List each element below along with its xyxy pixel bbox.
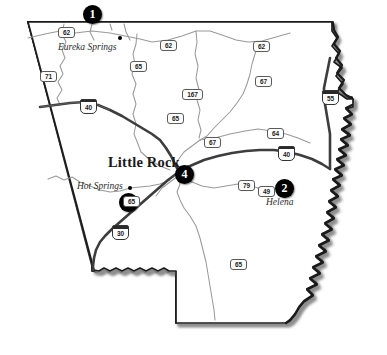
highway-shield-65-central: 65 bbox=[167, 113, 184, 124]
highway-shield-67-central: 67 bbox=[204, 137, 221, 148]
highway-shield-167: 167 bbox=[182, 89, 203, 100]
highway-shield-71: 71 bbox=[40, 71, 57, 82]
highway-shield-62-north-west: 62 bbox=[58, 27, 75, 38]
highway-shield-79: 79 bbox=[238, 180, 255, 191]
interstate-shield-40-west: 40 bbox=[80, 99, 97, 114]
city-label-little-rock: Little Rock bbox=[108, 155, 180, 170]
highway-shield-62-north-east: 62 bbox=[253, 41, 270, 52]
interstate-shield-55: 55 bbox=[322, 90, 339, 105]
highway-shield-65-little-rock: 65 bbox=[123, 196, 140, 207]
highway-shield-67-north: 67 bbox=[255, 76, 272, 87]
highway-shield-62-north-central: 62 bbox=[160, 40, 177, 51]
city-dot-eureka-springs bbox=[118, 36, 122, 40]
arkansas-map: Eureka Springs Little Rock Hot Springs H… bbox=[0, 0, 387, 355]
map-marker-1[interactable]: 1 bbox=[83, 5, 102, 24]
city-dot-hot-springs bbox=[128, 186, 132, 190]
city-label-hot-springs: Hot Springs bbox=[77, 182, 123, 192]
map-marker-2[interactable]: 2 bbox=[275, 179, 294, 198]
highway-shield-65-north: 65 bbox=[130, 61, 147, 72]
map-marker-4[interactable]: 4 bbox=[175, 165, 194, 184]
interstate-shield-40-east: 40 bbox=[278, 146, 295, 161]
interstate-shield-30: 30 bbox=[112, 225, 129, 240]
city-label-helena: Helena bbox=[266, 198, 293, 208]
highway-shield-65-south: 65 bbox=[230, 259, 247, 270]
highway-shield-49: 49 bbox=[258, 186, 275, 197]
highway-shield-64: 64 bbox=[267, 128, 284, 139]
city-label-eureka-springs: Eureka Springs bbox=[58, 43, 117, 53]
